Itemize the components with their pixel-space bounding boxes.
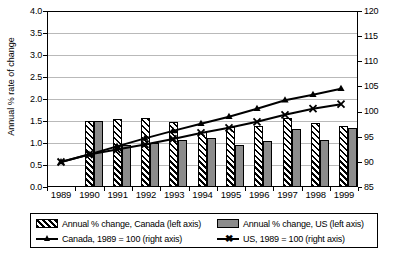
y-axis-tickmark-right — [358, 137, 362, 138]
legend-label: US, 1989 = 100 (right axis) — [243, 234, 345, 244]
y-axis-tickmark-right — [358, 61, 362, 62]
y-axis-tick-right: 90 — [364, 158, 394, 167]
y-axis-tickmark-right — [358, 162, 362, 163]
x-axis-label-1999: 1999 — [327, 190, 361, 200]
legend-item-canada-index: Canada, 1989 = 100 (right axis) — [36, 231, 201, 246]
y-axis-tick-left: 0.5 — [4, 161, 42, 170]
legend-item-us-bars: Annual % change, US (left axis) — [217, 216, 364, 231]
y-axis-tick-right: 95 — [364, 133, 394, 142]
gray-box-icon — [217, 217, 239, 230]
legend-label: Annual % change, US (left axis) — [243, 219, 364, 229]
hatched-box-icon — [36, 217, 58, 230]
y-axis-tick-left: 2.0 — [4, 95, 42, 104]
y-axis-tick-left: 4.0 — [4, 7, 42, 16]
line-series-layer — [47, 11, 358, 187]
legend-label: Canada, 1989 = 100 (right axis) — [62, 234, 182, 244]
y-axis-tick-right: 120 — [364, 7, 394, 16]
y-axis-tick-right: 100 — [364, 107, 394, 116]
chart-figure: Annual % rate of change 4.0 3.5 3.0 2.5 … — [0, 0, 409, 255]
y-axis-tick-left: 3.5 — [4, 29, 42, 38]
legend-item-canada-bars: Annual % change, Canada (left axis) — [36, 216, 201, 231]
y-axis-tick-left: 1.0 — [4, 139, 42, 148]
y-axis-tick-right: 110 — [364, 57, 394, 66]
legend-label: Annual % change, Canada (left axis) — [62, 219, 201, 229]
y-axis-tick-left: 0.0 — [4, 183, 42, 192]
triangle-line-icon — [36, 232, 58, 245]
y-axis-tickmark-right — [358, 36, 362, 37]
y-axis-tickmark-right — [358, 86, 362, 87]
y-axis-tick-left: 3.0 — [4, 51, 42, 60]
y-axis-tick-left: 1.5 — [4, 117, 42, 126]
y-axis-tickmark-right — [358, 112, 362, 113]
y-axis-tickmark-right — [358, 11, 362, 12]
x-marker-line-icon: ✖ — [217, 232, 239, 245]
y-axis-tick-right: 115 — [364, 32, 394, 41]
chart-legend: Annual % change, Canada (left axis) Cana… — [30, 213, 378, 248]
y-axis-title: Annual % rate of change — [7, 22, 16, 152]
legend-item-us-index: ✖ US, 1989 = 100 (right axis) — [217, 231, 364, 246]
y-axis-tick-left: 2.5 — [4, 73, 42, 82]
legend-column-left: Annual % change, Canada (left axis) Cana… — [36, 216, 201, 246]
legend-column-right: Annual % change, US (left axis) ✖ US, 19… — [217, 216, 364, 246]
y-axis-tick-right: 105 — [364, 82, 394, 91]
y-axis-tick-right: 85 — [364, 183, 394, 192]
